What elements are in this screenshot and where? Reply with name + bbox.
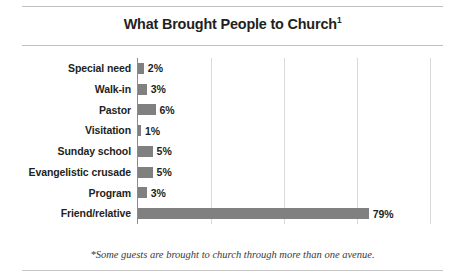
- bar-value-label: 79%: [373, 208, 394, 220]
- category-label: Evangelistic crusade: [0, 162, 131, 183]
- bar-value-label: 1%: [145, 125, 160, 137]
- bar: [138, 125, 141, 136]
- category-label: Walk-in: [0, 79, 131, 100]
- bar-container: 6%: [138, 100, 175, 121]
- chart-figure: What Brought People to Church1 Special n…: [0, 0, 465, 277]
- bar: [138, 167, 153, 178]
- chart-title-text: What Brought People to Church: [124, 15, 337, 32]
- bar-row: Pastor6%: [0, 100, 465, 121]
- rule-top: [22, 6, 443, 7]
- category-label: Sunday school: [0, 141, 131, 162]
- bar-row: Friend/relative79%: [0, 203, 465, 224]
- category-label: Friend/relative: [0, 203, 131, 224]
- bar-value-label: 3%: [151, 83, 166, 95]
- bar: [138, 84, 147, 95]
- bar-value-label: 3%: [151, 187, 166, 199]
- bar-container: 5%: [138, 141, 172, 162]
- category-label: Pastor: [0, 100, 131, 121]
- bar-container: 1%: [138, 120, 160, 141]
- bar-container: 79%: [138, 203, 394, 224]
- chart-footnote: *Some guests are brought to church throu…: [0, 249, 465, 260]
- bar-row: Sunday school5%: [0, 141, 465, 162]
- bar: [138, 208, 369, 219]
- bar-value-label: 5%: [157, 145, 172, 157]
- bar-value-label: 5%: [157, 166, 172, 178]
- bar-row: Evangelistic crusade5%: [0, 162, 465, 183]
- bar: [138, 187, 147, 198]
- bar-row: Visitation1%: [0, 120, 465, 141]
- bar: [138, 146, 153, 157]
- bar-container: 3%: [138, 183, 166, 204]
- bar-value-label: 6%: [160, 104, 175, 116]
- chart-title: What Brought People to Church1: [16, 15, 448, 33]
- bar: [138, 63, 144, 74]
- bar-container: 5%: [138, 162, 172, 183]
- chart-title-superscript: 1: [337, 15, 341, 25]
- bar-row: Special need2%: [0, 58, 465, 79]
- plot-area: Special need2%Walk-in3%Pastor6%Visitatio…: [0, 58, 465, 224]
- rule-under-title: [22, 45, 443, 46]
- category-label: Special need: [0, 58, 131, 79]
- bar: [138, 104, 156, 115]
- rule-bottom: [22, 270, 443, 271]
- category-label: Visitation: [0, 120, 131, 141]
- bar-row: Program3%: [0, 183, 465, 204]
- category-label: Program: [0, 183, 131, 204]
- bar-container: 2%: [138, 58, 163, 79]
- bar-value-label: 2%: [148, 62, 163, 74]
- bar-container: 3%: [138, 79, 166, 100]
- bar-row: Walk-in3%: [0, 79, 465, 100]
